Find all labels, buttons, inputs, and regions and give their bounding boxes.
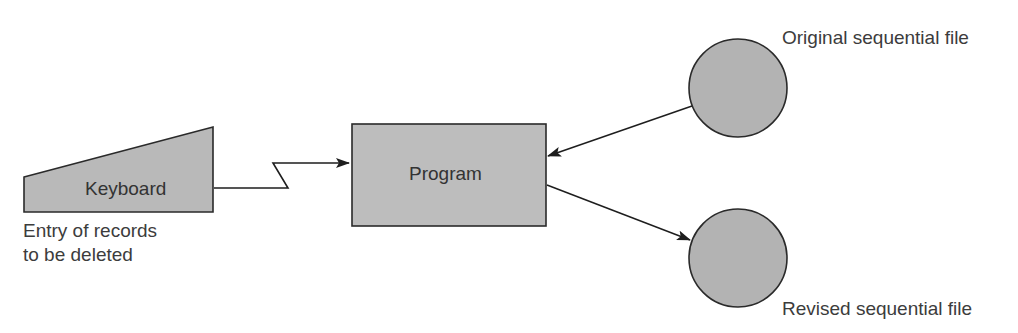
keyboard-to-program-link bbox=[214, 163, 349, 188]
revised-file-disk bbox=[689, 209, 787, 307]
revised-file-label: Revised sequential file bbox=[782, 298, 972, 320]
original-file-disk bbox=[689, 39, 787, 137]
program-to-revised-arrow bbox=[547, 185, 690, 240]
original-file-label: Original sequential file bbox=[782, 27, 969, 49]
keyboard-caption-line1: Entry of records bbox=[23, 220, 157, 242]
program-label: Program bbox=[409, 163, 482, 185]
original-to-program-arrow bbox=[548, 106, 692, 156]
keyboard-caption-line2: to be deleted bbox=[23, 244, 133, 266]
keyboard-label: Keyboard bbox=[85, 178, 166, 200]
diagram-canvas bbox=[0, 0, 1018, 333]
